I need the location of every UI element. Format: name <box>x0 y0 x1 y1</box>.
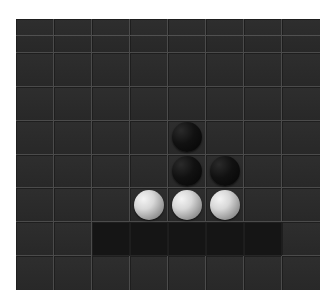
board-cell-r4-c6[interactable] <box>244 155 282 189</box>
board-cell-r4-c3[interactable] <box>130 155 168 189</box>
board-cell-r1-c0[interactable] <box>16 53 54 87</box>
board-cell-r0-c4[interactable] <box>168 19 206 53</box>
board-cell-r2-c3[interactable] <box>130 87 168 121</box>
board-cell-r1-c7[interactable] <box>282 53 320 87</box>
white-stone <box>172 190 202 220</box>
board-cell-r4-c4[interactable] <box>168 155 206 189</box>
board-cell-r5-c6[interactable] <box>244 188 282 222</box>
board-cell-r7-c5[interactable] <box>206 256 244 290</box>
board-cell-r7-c6[interactable] <box>244 256 282 290</box>
board-cell-r1-c1[interactable] <box>54 53 92 87</box>
board-cell-r7-c1[interactable] <box>54 256 92 290</box>
board-cell-r2-c1[interactable] <box>54 87 92 121</box>
board-cell-r4-c0[interactable] <box>16 155 54 189</box>
board-cell-r0-c1[interactable] <box>54 19 92 53</box>
board-cell-r5-c1[interactable] <box>54 188 92 222</box>
board-cell-r6-c3[interactable] <box>130 222 168 256</box>
board-cell-r5-c4[interactable] <box>168 188 206 222</box>
board-cell-r0-c6[interactable] <box>244 19 282 53</box>
board-cell-r6-c5[interactable] <box>206 222 244 256</box>
board-cell-r2-c2[interactable] <box>92 87 130 121</box>
board-cell-r7-c4[interactable] <box>168 256 206 290</box>
board-cell-r1-c4[interactable] <box>168 53 206 87</box>
board-cell-r3-c5[interactable] <box>206 121 244 155</box>
board-cell-r5-c7[interactable] <box>282 188 320 222</box>
board-cell-r6-c4[interactable] <box>168 222 206 256</box>
board-cell-r6-c7[interactable] <box>282 222 320 256</box>
board-cell-r2-c6[interactable] <box>244 87 282 121</box>
board-cell-r7-c3[interactable] <box>130 256 168 290</box>
board-cell-r3-c7[interactable] <box>282 121 320 155</box>
board-cell-r0-c5[interactable] <box>206 19 244 53</box>
board-cell-r3-c6[interactable] <box>244 121 282 155</box>
board-cell-r5-c3[interactable] <box>130 188 168 222</box>
board-cell-r2-c0[interactable] <box>16 87 54 121</box>
board-cell-r2-c5[interactable] <box>206 87 244 121</box>
board-cell-r2-c7[interactable] <box>282 87 320 121</box>
board-cell-r3-c1[interactable] <box>54 121 92 155</box>
board-cell-r5-c0[interactable] <box>16 188 54 222</box>
black-stone <box>210 156 240 186</box>
board-cell-r4-c2[interactable] <box>92 155 130 189</box>
board-cell-r0-c2[interactable] <box>92 19 130 53</box>
board-cell-r0-c0[interactable] <box>16 19 54 53</box>
board-cell-r5-c2[interactable] <box>92 188 130 222</box>
board-cell-r1-c6[interactable] <box>244 53 282 87</box>
black-stone <box>172 156 202 186</box>
board-cell-r6-c1[interactable] <box>54 222 92 256</box>
board-cell-r5-c5[interactable] <box>206 188 244 222</box>
board-cell-r6-c0[interactable] <box>16 222 54 256</box>
board-cell-r4-c5[interactable] <box>206 155 244 189</box>
board-cell-r0-c7[interactable] <box>282 19 320 53</box>
board-cell-r7-c7[interactable] <box>282 256 320 290</box>
white-stone <box>210 190 240 220</box>
board-cell-r4-c1[interactable] <box>54 155 92 189</box>
board-cell-r7-c0[interactable] <box>16 256 54 290</box>
board-cell-r3-c3[interactable] <box>130 121 168 155</box>
board-cell-r0-c3[interactable] <box>130 19 168 53</box>
white-stone <box>134 190 164 220</box>
black-stone <box>172 122 202 152</box>
board-cell-r3-c0[interactable] <box>16 121 54 155</box>
board-cell-r7-c2[interactable] <box>92 256 130 290</box>
board-cell-r1-c5[interactable] <box>206 53 244 87</box>
board-cell-r1-c2[interactable] <box>92 53 130 87</box>
board-cell-r2-c4[interactable] <box>168 87 206 121</box>
board-cell-r3-c4[interactable] <box>168 121 206 155</box>
board-cell-r6-c6[interactable] <box>244 222 282 256</box>
board-cell-r1-c3[interactable] <box>130 53 168 87</box>
game-board <box>16 19 320 290</box>
board-cell-r3-c2[interactable] <box>92 121 130 155</box>
board-cell-r6-c2[interactable] <box>92 222 130 256</box>
board-cell-r4-c7[interactable] <box>282 155 320 189</box>
